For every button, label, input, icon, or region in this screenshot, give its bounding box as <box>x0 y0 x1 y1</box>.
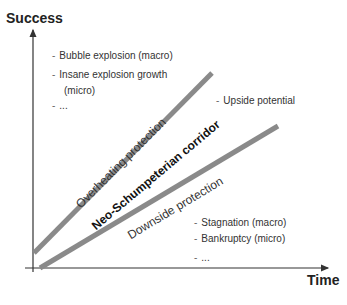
note-top-1: -Bubble explosion (macro) <box>52 49 173 62</box>
y-axis-label: Success <box>6 10 63 26</box>
note-bottom-3: -... <box>194 251 210 264</box>
note-top-4: -... <box>52 99 68 112</box>
x-axis-label: Time <box>307 272 339 288</box>
note-right-1: -Upside potential <box>216 94 295 107</box>
note-bottom-2: -Bankruptcy (micro) <box>194 232 285 245</box>
note-top-2: -Insane explosion growth <box>52 68 167 81</box>
note-bottom-1: -Stagnation (macro) <box>194 216 286 229</box>
note-top-3: (micro) <box>64 84 95 97</box>
